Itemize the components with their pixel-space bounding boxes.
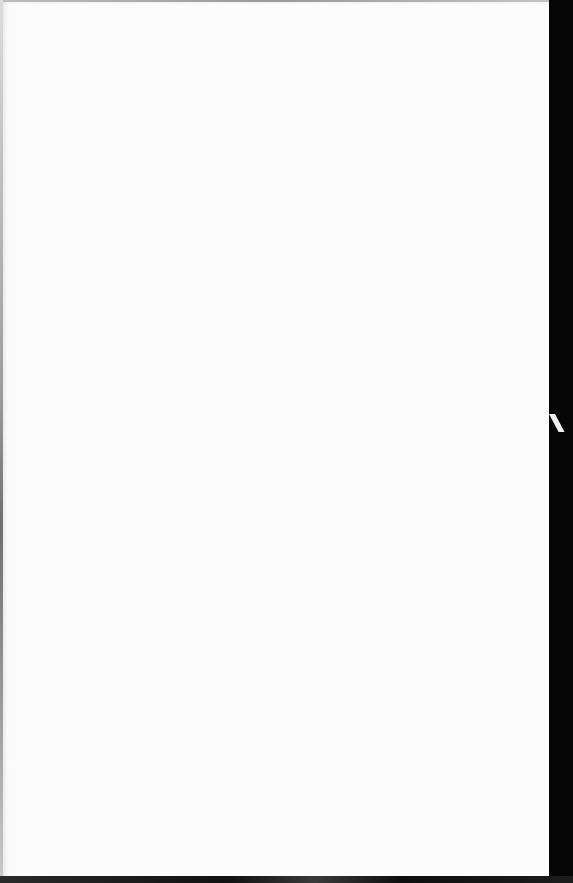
page-left-edge — [0, 0, 3, 876]
page-top-edge — [0, 0, 549, 2]
photo-scene — [0, 0, 573, 883]
page-content — [40, 40, 485, 828]
blank-paper-page — [0, 0, 549, 876]
right-dark-background — [549, 0, 573, 883]
bottom-dark-background — [0, 876, 573, 883]
